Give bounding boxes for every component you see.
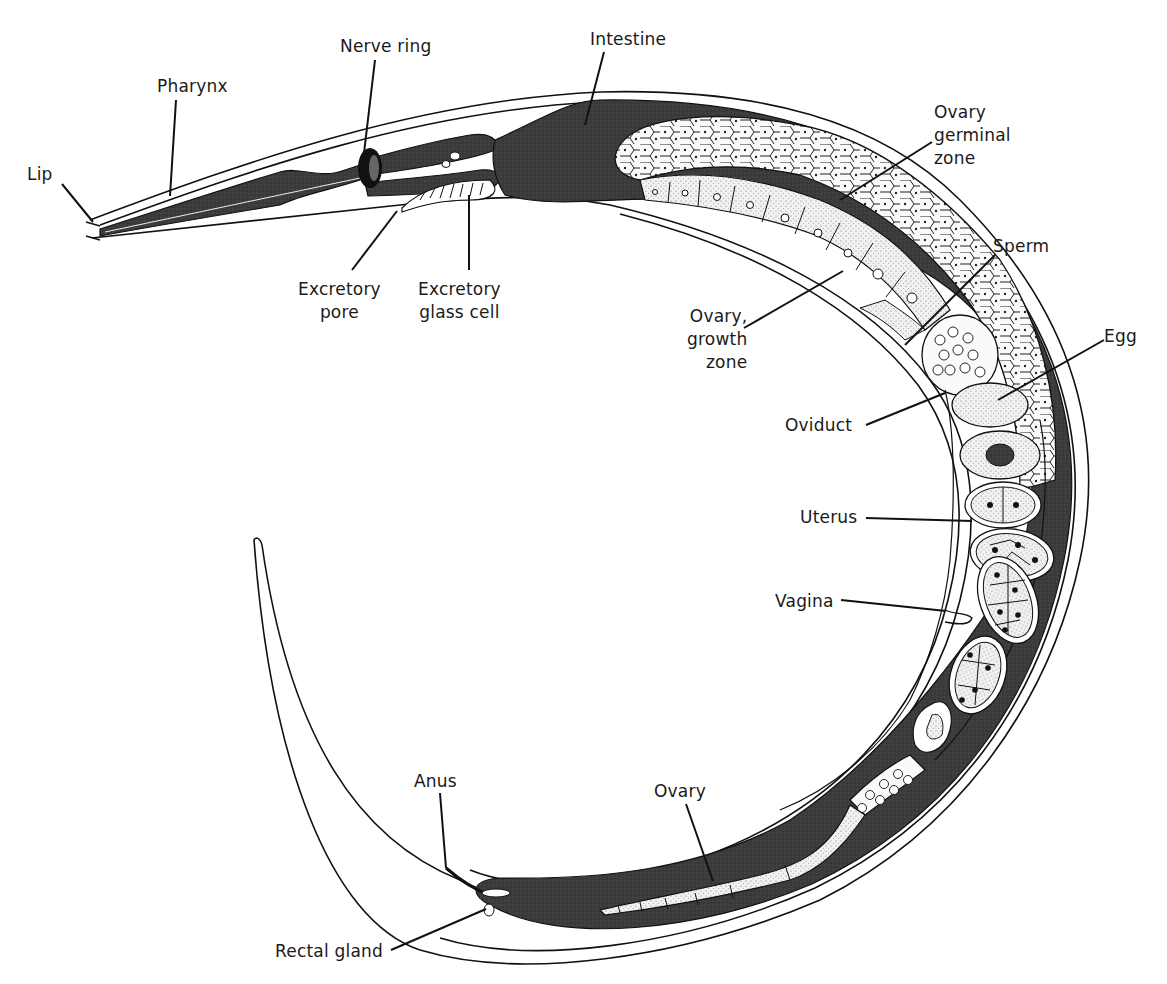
leader-line-lip [62, 184, 93, 222]
leader-line-excretory-pore [352, 211, 397, 270]
nematode-anatomy-diagram: Lip Pharynx Nerve ring Intestine Excreto… [0, 0, 1167, 984]
label-rectal-gland: Rectal gland [275, 940, 383, 963]
leader-line-ovary-growth-zone [744, 271, 843, 328]
label-intestine: Intestine [590, 28, 666, 51]
label-pharynx: Pharynx [157, 75, 228, 98]
label-ovary-germinal-zone: Ovary germinal zone [934, 101, 1011, 170]
label-ovary-growth-zone: Ovary, growth zone [687, 305, 747, 374]
label-uterus: Uterus [800, 506, 857, 529]
label-anus: Anus [414, 770, 457, 793]
label-nerve-ring: Nerve ring [340, 35, 431, 58]
vagina [945, 610, 972, 624]
label-egg: Egg [1104, 325, 1137, 348]
label-sperm: Sperm [993, 235, 1049, 258]
label-excretory-gland-cell: Excretory glass cell [418, 278, 501, 324]
leader-line-anus [440, 793, 446, 868]
label-vagina: Vagina [775, 590, 834, 613]
leader-line-pharynx [170, 100, 176, 196]
label-ovary: Ovary [654, 780, 706, 803]
pharynx [100, 134, 499, 236]
leader-line-rectal-gland [391, 909, 486, 950]
label-oviduct: Oviduct [785, 414, 852, 437]
leader-line-uterus [866, 518, 972, 521]
leader-line-vagina [841, 600, 946, 611]
label-lip: Lip [27, 163, 53, 186]
label-excretory-pore: Excretory pore [298, 278, 381, 324]
